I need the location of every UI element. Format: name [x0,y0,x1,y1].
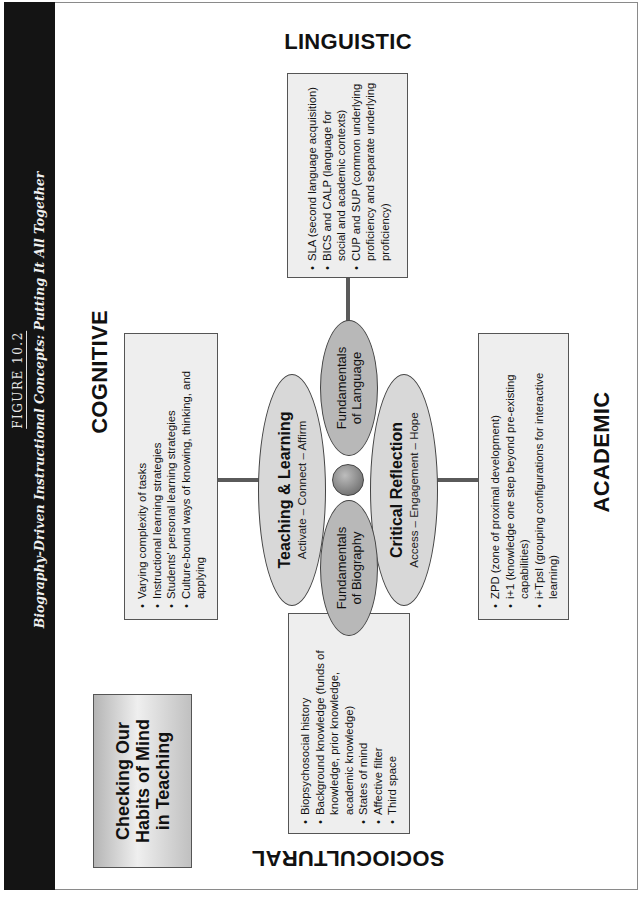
list-item: Culture-bound ways of knowing, thinking,… [178,346,207,608]
list-item: SLA (second language acquisition) [304,82,319,270]
fundamentals-language-line1: Fundamentals [334,347,349,429]
critical-reflection-label: Critical Reflection Access – Engagement … [388,412,420,567]
list-item: Biopsychosocial history [298,624,313,824]
connector-linguistic [346,278,350,326]
sociocultural-list: Biopsychosocial history Background knowl… [298,624,400,824]
callout-line1: Checking Our [113,719,133,843]
cognitive-box: Varying complexity of tasks Instructiona… [124,333,218,620]
academic-label: ACADEMIC [589,392,615,513]
habits-of-mind-callout: Checking Our Habits of Mind in Teaching [93,694,192,868]
list-item: Instructional learning strategies [149,346,164,608]
critical-reflection-title: Critical Reflection [388,412,406,567]
teaching-learning-subtitle: Activate – Connect – Affirm [296,411,308,568]
sociocultural-label: SOCIOCULTURAL [252,845,445,871]
fundamentals-biography-label: Fundamentals of Biography [334,527,364,609]
teaching-learning-label: Teaching & Learning Activate – Connect –… [276,411,308,568]
academic-list: ZPD (zone of proximal development) i+1 (… [487,346,560,608]
cognitive-label: COGNITIVE [87,310,113,434]
teaching-learning-title: Teaching & Learning [276,411,294,568]
list-item: States of mind [356,624,371,824]
academic-box: ZPD (zone of proximal development) i+1 (… [478,333,569,620]
fundamentals-language-label: Fundamentals of Language [334,347,364,429]
figure-title-bar [4,2,55,890]
callout-line2: Habits of Mind [133,719,153,843]
figure-title: Biography-Driven Instructional Concepts:… [32,172,47,629]
list-item: i+1 (knowledge one step beyond pre-exist… [502,346,531,608]
center-hub [332,464,364,496]
list-item: BICS and CALP (language for social and a… [319,82,348,270]
sociocultural-box: Biopsychosocial history Background knowl… [288,613,410,834]
linguistic-label: LINGUISTIC [284,29,412,55]
critical-reflection-subtitle: Access – Engagement – Hope [408,412,420,567]
fundamentals-biography-line1: Fundamentals [334,527,349,609]
cognitive-list: Varying complexity of tasks Instructiona… [135,346,208,608]
list-item: Varying complexity of tasks [135,346,150,608]
list-item: Background knowledge (funds of knowledge… [313,624,357,824]
linguistic-list: SLA (second language acquisition) BICS a… [304,82,391,270]
list-item: Third space [385,624,400,824]
list-item: Students' personal learning strategies [164,346,179,608]
fundamentals-language-line2: of Language [349,347,364,429]
figure-number: FIGURE 10.2 [11,331,27,429]
habits-of-mind-text: Checking Our Habits of Mind in Teaching [113,719,173,843]
list-item: Affective filter [371,624,386,824]
callout-line3: in Teaching [153,719,173,843]
list-item: ZPD (zone of proximal development) [487,346,502,608]
fundamentals-biography-line2: of Biography [349,527,364,609]
connector-academic [436,478,478,482]
connector-cognitive [218,478,262,482]
list-item: i+TpsI (grouping configurations for inte… [531,346,560,608]
linguistic-box: SLA (second language acquisition) BICS a… [287,73,408,278]
list-item: CUP and SUP (common underlying proficien… [348,82,392,270]
